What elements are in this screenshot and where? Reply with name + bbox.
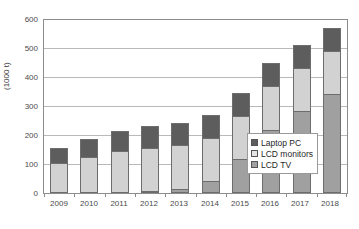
- bar-stack: [111, 131, 129, 193]
- bar-segment-lcd-monitors-2009: [50, 163, 68, 193]
- y-tick-label-300: 300: [12, 103, 38, 111]
- x-tick-label-2018: 2018: [313, 199, 347, 208]
- bar-stack: [323, 28, 341, 193]
- x-tick-mark-2011: [105, 194, 106, 197]
- y-tick-label-400: 400: [12, 74, 38, 82]
- x-axis-ticks: [44, 194, 347, 198]
- bar-stack: [50, 148, 68, 193]
- y-tick-label-0: 0: [12, 190, 38, 198]
- bar-segment-laptop-pc-2015: [232, 93, 250, 115]
- legend-label-lcd-monitors: LCD monitors: [261, 149, 313, 159]
- lcd-monitors-swatch-icon: [251, 150, 258, 157]
- bar-segment-lcd-monitors-2018: [323, 51, 341, 94]
- x-tick-label-2015: 2015: [223, 199, 257, 208]
- x-tick-label-2013: 2013: [162, 199, 196, 208]
- x-tick-mark-2013: [165, 194, 166, 197]
- bar-segment-lcd-monitors-2011: [111, 151, 129, 193]
- bar-segment-laptop-pc-2009: [50, 148, 68, 162]
- y-axis-title: (1000 t): [2, 62, 11, 90]
- bar-segment-laptop-pc-2016: [262, 63, 280, 86]
- bar-segment-laptop-pc-2012: [141, 126, 159, 148]
- x-tick-mark-2016: [256, 194, 257, 197]
- bar-segment-laptop-pc-2017: [293, 45, 311, 68]
- bar-segment-lcd-monitors-2010: [80, 157, 98, 193]
- x-tick-label-2011: 2011: [102, 199, 136, 208]
- x-tick-mark-2010: [74, 194, 75, 197]
- x-tick-mark-2014: [196, 194, 197, 197]
- legend-item-lcd-monitors: LCD monitors: [251, 148, 313, 159]
- bar-segment-lcd-monitors-2013: [171, 145, 189, 189]
- stacked-bar-chart: (1000 t) 600 500 400 300 200 100 0 2009 …: [0, 0, 359, 229]
- bar-stack: [80, 139, 98, 193]
- bar-stack: [141, 126, 159, 193]
- bar-segment-laptop-pc-2010: [80, 139, 98, 157]
- bar-segment-laptop-pc-2018: [323, 28, 341, 51]
- bar-stack: [202, 115, 220, 193]
- bar-segment-lcd-tv-2014: [202, 181, 220, 193]
- x-tick-mark-2018: [317, 194, 318, 197]
- bar-segment-lcd-tv-2018: [323, 94, 341, 193]
- bar-segment-laptop-pc-2011: [111, 131, 129, 151]
- legend-label-laptop-pc: Laptop PC: [261, 138, 301, 148]
- laptop-pc-swatch-icon: [251, 139, 258, 146]
- y-tick-label-500: 500: [12, 45, 38, 53]
- y-tick-label-100: 100: [12, 161, 38, 169]
- x-tick-mark-2012: [135, 194, 136, 197]
- x-tick-mark-end: [346, 194, 347, 197]
- bar-segment-laptop-pc-2013: [171, 123, 189, 145]
- bar-segment-lcd-monitors-2012: [141, 148, 159, 191]
- bar-segment-lcd-monitors-2014: [202, 138, 220, 181]
- x-tick-mark-2015: [226, 194, 227, 197]
- legend-item-laptop-pc: Laptop PC: [251, 137, 313, 148]
- y-tick-label-200: 200: [12, 132, 38, 140]
- bar-segment-lcd-monitors-2016: [262, 86, 280, 130]
- x-tick-mark-2017: [286, 194, 287, 197]
- bar-stack: [171, 123, 189, 193]
- bar-segment-lcd-tv-2012: [141, 191, 159, 193]
- x-tick-label-2010: 2010: [72, 199, 106, 208]
- x-tick-label-2012: 2012: [132, 199, 166, 208]
- bar-segment-lcd-monitors-2017: [293, 68, 311, 111]
- bar-segment-lcd-tv-2013: [171, 189, 189, 193]
- x-axis-labels: 2009 2010 2011 2012 2013 2014 2015 2016 …: [44, 199, 347, 213]
- x-tick-mark-2009: [44, 194, 45, 197]
- legend-item-lcd-tv: LCD TV: [251, 159, 313, 170]
- x-tick-label-2014: 2014: [193, 199, 227, 208]
- bar-segment-laptop-pc-2014: [202, 115, 220, 138]
- lcd-tv-swatch-icon: [251, 161, 258, 168]
- y-tick-label-600: 600: [12, 16, 38, 24]
- chart-legend: Laptop PC LCD monitors LCD TV: [247, 133, 318, 174]
- legend-label-lcd-tv: LCD TV: [261, 160, 291, 170]
- x-tick-label-2016: 2016: [253, 199, 287, 208]
- x-tick-label-2017: 2017: [283, 199, 317, 208]
- x-tick-label-2009: 2009: [42, 199, 76, 208]
